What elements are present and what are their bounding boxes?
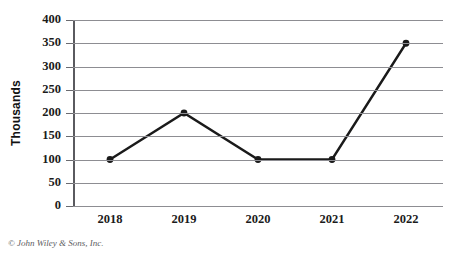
gridline-50: [73, 183, 443, 184]
gridline-250: [73, 90, 443, 91]
y-axis-label-350: 350: [21, 35, 61, 50]
y-axis-label-150: 150: [21, 128, 61, 143]
gridline-100: [73, 160, 443, 161]
y-tick-200: [66, 113, 73, 114]
y-axis-label-200: 200: [21, 105, 61, 120]
y-axis-label-400: 400: [21, 12, 61, 27]
copyright-notice: © John Wiley & Sons, Inc.: [8, 238, 104, 248]
gridline-0: [73, 206, 443, 207]
x-axis-label-2021: 2021: [297, 212, 367, 227]
gridline-300: [73, 67, 443, 68]
x-axis-label-2020: 2020: [223, 212, 293, 227]
y-axis-label-50: 50: [21, 175, 61, 190]
y-tick-350: [66, 43, 73, 44]
gridline-400: [73, 20, 443, 21]
y-axis-label-0: 0: [21, 198, 61, 213]
plot-area: [73, 20, 443, 206]
x-axis-label-2018: 2018: [75, 212, 145, 227]
y-axis-label-100: 100: [21, 152, 61, 167]
gridline-200: [73, 113, 443, 114]
gridline-150: [73, 136, 443, 137]
y-tick-0: [66, 206, 73, 207]
x-axis-label-2022: 2022: [371, 212, 441, 227]
y-tick-50: [66, 183, 73, 184]
y-tick-100: [66, 160, 73, 161]
y-tick-300: [66, 67, 73, 68]
y-tick-250: [66, 90, 73, 91]
y-tick-150: [66, 136, 73, 137]
x-axis-label-2019: 2019: [149, 212, 219, 227]
y-axis-label-250: 250: [21, 82, 61, 97]
y-axis-label-300: 300: [21, 59, 61, 74]
y-tick-400: [66, 20, 73, 21]
gridline-350: [73, 43, 443, 44]
